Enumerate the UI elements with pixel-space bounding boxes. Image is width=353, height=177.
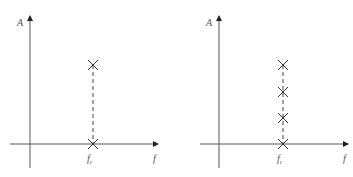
fc-sub: c xyxy=(90,159,93,165)
right-spectrum-plot: A fc f xyxy=(176,0,353,177)
right-plot-graphic xyxy=(176,0,353,177)
fc-tick-label: fc xyxy=(277,154,282,167)
x-axis-label: f xyxy=(153,154,156,164)
fc-sub: c xyxy=(280,159,283,165)
x-axis-label: f xyxy=(343,154,346,164)
fc-tick-label: fc xyxy=(87,154,92,167)
y-axis-label: A xyxy=(17,18,23,28)
left-spectrum-plot: A fc f xyxy=(0,0,176,177)
left-plot-graphic xyxy=(0,0,176,177)
y-axis-label: A xyxy=(206,18,212,28)
